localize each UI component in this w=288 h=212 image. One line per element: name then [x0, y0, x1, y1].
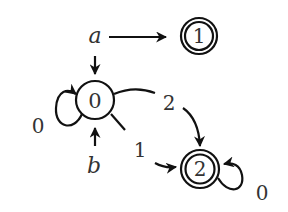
initial-marker-a: a — [88, 23, 101, 48]
edge-0-2-label-2: 2 — [163, 91, 176, 115]
state-0-label: 0 — [88, 89, 101, 113]
edge-0-2-label-1: 1 — [134, 138, 147, 162]
state-1: 1 — [181, 18, 217, 54]
state-0: 0 — [76, 81, 114, 119]
state-2: 2 — [181, 150, 219, 188]
edge-0-2-label1-end — [155, 163, 176, 167]
state-1-label: 1 — [193, 24, 206, 48]
edge-0-2-label1-start — [111, 114, 125, 130]
state-2-label: 2 — [194, 157, 207, 181]
self-loop-2-label: 0 — [256, 181, 269, 205]
edge-0-2-label2-end — [183, 108, 200, 146]
edge-0-2-label2-start — [114, 89, 155, 94]
self-loop-0-label: 0 — [32, 114, 45, 138]
initial-marker-b: b — [87, 153, 101, 178]
self-loop-2 — [218, 163, 242, 189]
automaton-diagram: 1 0 2 a b 0 2 1 0 — [0, 0, 288, 212]
